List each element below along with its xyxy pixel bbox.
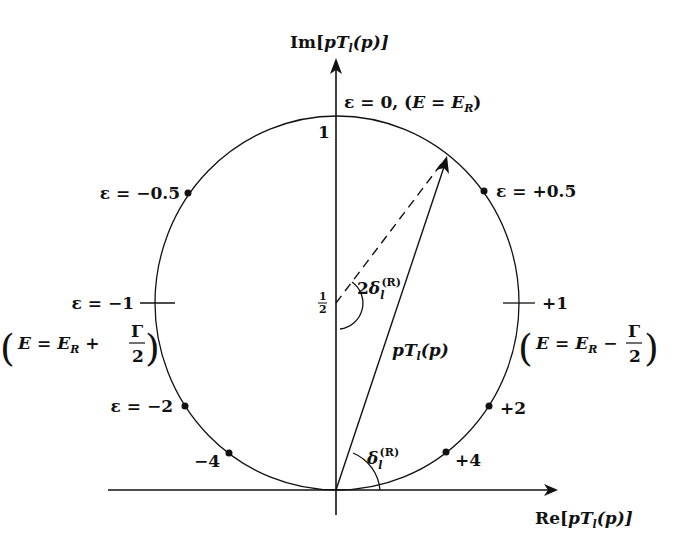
- condition-right: ( E=ER− Γ 2 ): [518, 321, 659, 370]
- svg-text:): ): [644, 326, 659, 370]
- y-axis: [330, 58, 342, 515]
- svg-text:Γ: Γ: [628, 321, 640, 341]
- label-epsilon-minus-1: ε = −1: [72, 293, 135, 313]
- amplitude-label: pTl(p): [392, 340, 449, 363]
- unitarity-circle: [155, 116, 519, 490]
- label-epsilon-plus-2: +2: [500, 398, 526, 418]
- label-epsilon-plus-0.5: ε = +0.5: [496, 181, 576, 201]
- label-epsilon-minus-0.5: ε = −0.5: [100, 183, 180, 203]
- svg-text:2: 2: [629, 346, 641, 366]
- amplitude-vector: [336, 167, 444, 490]
- phase-label: δl(R): [366, 446, 399, 472]
- label-epsilon-plus-4: +4: [455, 450, 481, 470]
- svg-text:Γ: Γ: [131, 321, 143, 341]
- tick-label-half: 1 2: [318, 290, 327, 316]
- label-epsilon-plus-1: +1: [542, 293, 568, 313]
- x-axis-label: Re[pTl(p)]: [535, 508, 633, 531]
- svg-text:2: 2: [319, 303, 327, 316]
- svg-text:E=ER+: E=ER+: [17, 333, 100, 356]
- double-phase-label: 2δl(R): [357, 276, 401, 302]
- y-axis-label: Im[pTl(p)]: [290, 32, 389, 55]
- svg-text:2: 2: [132, 346, 144, 366]
- svg-text:): ): [145, 326, 160, 370]
- point-epsilon-minus-4: [226, 450, 233, 457]
- point-epsilon-plus-0.5: [481, 188, 488, 195]
- svg-text:1: 1: [319, 290, 327, 303]
- svg-text:(: (: [518, 326, 533, 370]
- point-epsilon-plus-4: [443, 449, 450, 456]
- svg-text:E=ER−: E=ER−: [535, 333, 618, 356]
- argand-diagram: Im[pTl(p)] Re[pTl(p)] 1 1 2 ε = 0, (E = …: [0, 0, 676, 540]
- label-epsilon-0: ε = 0, (E = ER): [344, 92, 481, 115]
- label-epsilon-minus-4: −4: [194, 451, 220, 471]
- point-epsilon-minus-2: [182, 403, 189, 410]
- label-epsilon-minus-2: ε = −2: [111, 396, 174, 416]
- point-epsilon-plus-2: [486, 403, 493, 410]
- condition-left: ( E=ER+ Γ 2 ): [0, 321, 160, 370]
- point-epsilon-minus-0.5: [185, 190, 192, 197]
- svg-text:(: (: [0, 326, 15, 370]
- tick-label-1: 1: [318, 122, 330, 142]
